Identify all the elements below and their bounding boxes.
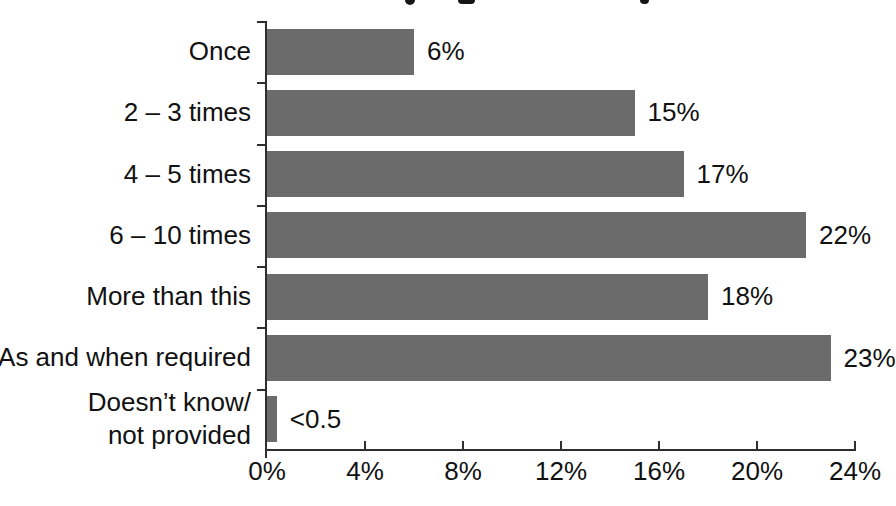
x-axis-tick [756, 441, 758, 449]
value-label: 6% [427, 36, 465, 67]
category-label: 6 – 10 times [0, 205, 251, 266]
x-axis-tick-label: 20% [731, 456, 783, 487]
x-axis-line [265, 449, 856, 451]
bar-chart-figure: Once2 – 3 times4 – 5 times6 – 10 timesMo… [0, 0, 896, 506]
x-axis-tick [658, 441, 660, 449]
bar [267, 396, 277, 442]
y-axis-tick [257, 144, 265, 146]
bar-row: 17% [267, 144, 855, 205]
x-axis-tick-label: 16% [633, 456, 685, 487]
y-axis-line [265, 21, 267, 458]
value-label: 23% [844, 343, 896, 374]
value-label: 17% [697, 159, 749, 190]
cropped-title-fragment [458, 0, 475, 4]
bar [267, 274, 708, 320]
category-label: More than this [0, 266, 251, 327]
y-axis-tick [257, 21, 265, 23]
x-axis-tick [560, 441, 562, 449]
bar [267, 151, 684, 197]
category-label: 4 – 5 times [0, 144, 251, 205]
x-axis-tick-label: 4% [346, 456, 384, 487]
value-label: 15% [648, 97, 700, 128]
bar [267, 335, 831, 381]
category-label: Once [0, 21, 251, 82]
x-axis-tick-label: 0% [248, 456, 286, 487]
value-label: 22% [819, 220, 871, 251]
bar-row: 15% [267, 82, 855, 143]
category-label: As and when required [0, 327, 251, 388]
x-axis-tick-label: 8% [444, 456, 482, 487]
value-label: <0.5 [290, 404, 341, 435]
x-axis-tick [364, 441, 366, 449]
x-axis-tick [854, 441, 856, 449]
x-axis-tick-label: 12% [535, 456, 587, 487]
cropped-title-fragment [640, 0, 649, 4]
y-axis-tick [257, 82, 265, 84]
bar-row: 18% [267, 266, 855, 327]
x-axis-tick [462, 441, 464, 449]
y-axis-tick [257, 327, 265, 329]
category-label: 2 – 3 times [0, 82, 251, 143]
bar [267, 212, 806, 258]
y-axis-tick [257, 389, 265, 391]
cropped-title-fragment [405, 0, 415, 5]
value-label: 18% [721, 281, 773, 312]
bar-row: 22% [267, 205, 855, 266]
plot-area: 6%15%17%22%18%23%<0.5 [267, 21, 855, 450]
bar [267, 90, 635, 136]
x-axis-tick-label: 24% [829, 456, 881, 487]
y-axis-tick [257, 266, 265, 268]
y-axis-tick [257, 205, 265, 207]
bar-row: 23% [267, 327, 855, 388]
bar-row: 6% [267, 21, 855, 82]
category-label: Doesn’t know/not provided [0, 389, 251, 450]
category-labels: Once2 – 3 times4 – 5 times6 – 10 timesMo… [0, 21, 251, 450]
bar [267, 29, 414, 75]
